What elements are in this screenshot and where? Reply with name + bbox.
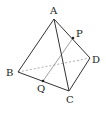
label-P: P <box>76 28 83 39</box>
tetrahedron-diagram: A B C D P Q <box>0 0 106 113</box>
edge-AC <box>54 19 69 91</box>
label-C: C <box>66 94 74 105</box>
point-P-dot <box>72 37 75 40</box>
label-D: D <box>92 54 100 65</box>
segment-PQ <box>43 38 73 81</box>
point-Q-dot <box>42 80 45 83</box>
label-B: B <box>6 67 13 78</box>
label-Q: Q <box>37 83 45 94</box>
edge-AB <box>18 19 54 72</box>
edge-CD <box>69 58 90 91</box>
label-A: A <box>49 5 58 16</box>
